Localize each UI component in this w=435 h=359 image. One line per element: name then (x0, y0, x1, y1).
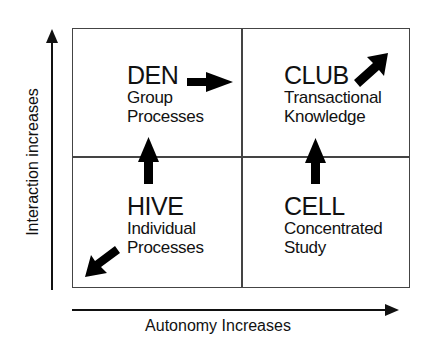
quadrant-subtitle: Individual (127, 219, 204, 238)
quadrant-title: CLUB (284, 62, 382, 88)
arrow-up-icon (138, 137, 159, 184)
quadrant-subtitle: Transactional (284, 88, 382, 107)
quadrant-title: HIVE (127, 193, 204, 219)
quadrant-den: DEN Group Processes (127, 62, 204, 126)
quadrant-title: CELL (284, 193, 382, 219)
quadrant-cell: CELL Concentrated Study (284, 193, 382, 257)
y-axis-arrow-icon (46, 29, 58, 290)
quadrant-subtitle: Knowledge (284, 107, 382, 126)
arrow-down-left-icon (85, 246, 120, 277)
quadrant-subtitle: Processes (127, 107, 204, 126)
diagram-arrows (0, 0, 435, 359)
arrow-up-icon (305, 138, 326, 184)
quadrant-hive: HIVE Individual Processes (127, 193, 204, 257)
quadrant-subtitle: Group (127, 88, 204, 107)
quadrant-subtitle: Study (284, 238, 382, 257)
quadrant-club: CLUB Transactional Knowledge (284, 62, 382, 126)
quadrant-subtitle: Processes (127, 238, 204, 257)
x-axis-arrow-icon (72, 304, 399, 316)
y-axis-label: Interaction increases (24, 82, 42, 242)
x-axis-label: Autonomy Increases (138, 317, 298, 335)
quadrant-title: DEN (127, 62, 204, 88)
quadrant-subtitle: Concentrated (284, 219, 382, 238)
